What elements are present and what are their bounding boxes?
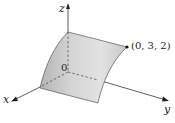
y-axis bbox=[98, 80, 166, 100]
x-axis bbox=[14, 87, 40, 100]
diagram-canvas bbox=[0, 0, 175, 123]
x-axis-arrow-icon bbox=[11, 97, 18, 102]
point-marker bbox=[125, 45, 128, 48]
y-axis-label: y bbox=[164, 104, 170, 115]
point-label: (0, 3, 2) bbox=[131, 41, 171, 51]
origin-label: 0 bbox=[61, 63, 67, 73]
y-axis-arrow-icon bbox=[162, 97, 169, 102]
curved-surface bbox=[40, 32, 127, 103]
x-axis-label: x bbox=[3, 94, 9, 105]
z-axis-arrow-icon bbox=[66, 3, 70, 9]
z-axis-label: z bbox=[59, 3, 65, 14]
surface-diagram: z 0 (0, 3, 2) x y bbox=[0, 0, 175, 123]
